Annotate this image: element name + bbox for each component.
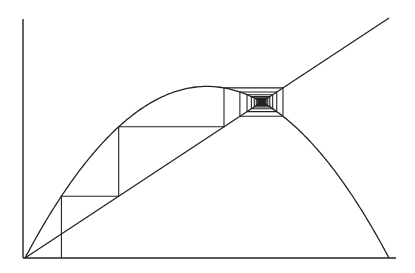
plot-svg xyxy=(0,0,415,273)
cobweb-diagram xyxy=(0,0,415,273)
identity-diagonal xyxy=(25,18,389,258)
logistic-parabola xyxy=(25,86,389,258)
cobweb-path xyxy=(61,88,283,258)
